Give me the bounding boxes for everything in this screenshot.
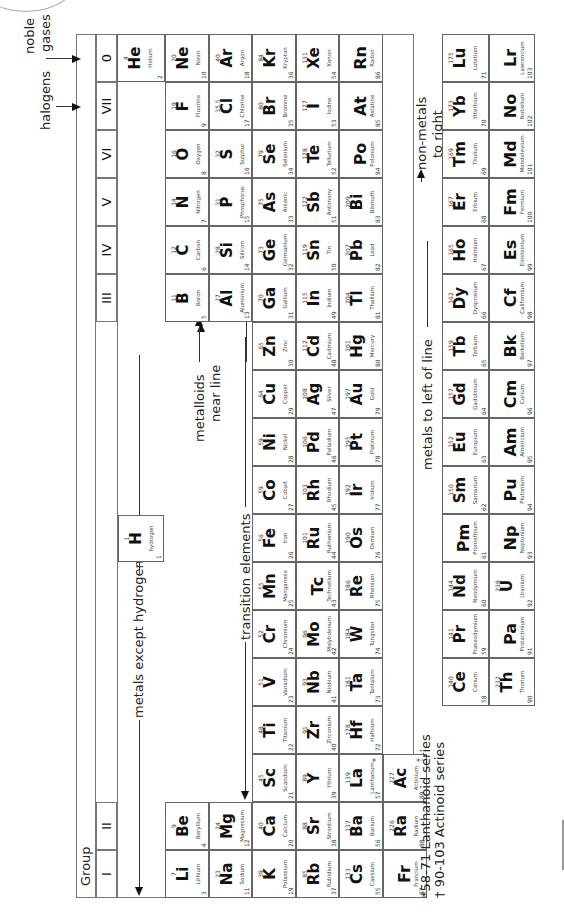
metalloids-label: metalloids xyxy=(192,374,207,442)
atomic-number: 71 xyxy=(480,71,487,79)
atomic-number: 36 xyxy=(287,71,294,79)
atomic-number: 10 xyxy=(200,71,207,79)
element-es: EsEinsteinium99 xyxy=(489,226,536,274)
element-pt: 195PtPlatinum78 xyxy=(339,418,383,466)
element-symbol: Ce xyxy=(453,659,468,705)
atomic-number: 103 xyxy=(526,68,533,79)
element-name: Lawrencium xyxy=(519,35,525,81)
element-symbol: Nd xyxy=(453,563,468,609)
group-0: 0 xyxy=(96,34,117,82)
element-se: 79SeSelenium34 xyxy=(252,130,296,178)
atomic-number: 31 xyxy=(287,311,294,319)
element-o: 16OOxygen8 xyxy=(165,130,209,178)
atomic-number: 40 xyxy=(330,743,337,751)
element-symbol: Bi xyxy=(350,179,365,225)
atomic-number: 56 xyxy=(374,839,381,847)
element-symbol: Lu xyxy=(453,35,468,81)
element-cs: 133CsCaesium55 xyxy=(339,850,383,898)
element-symbol: Ir xyxy=(350,467,365,513)
transition-arrow-line xyxy=(245,642,246,792)
element-symbol: Md xyxy=(503,131,518,177)
element-symbol: Cu xyxy=(263,371,278,417)
element-tm: 169TmThulium69 xyxy=(442,130,489,178)
element-symbol: U xyxy=(500,563,515,609)
atomic-number: 21 xyxy=(287,791,294,799)
element-name: Californium xyxy=(519,275,525,321)
element-symbol: Rn xyxy=(353,35,368,81)
element-symbol: Xe xyxy=(307,35,322,81)
atomic-number: 48 xyxy=(330,359,337,367)
element-fm: FmFermium100 xyxy=(489,178,536,226)
element-cr: 52CrChromium24 xyxy=(252,610,296,658)
series-marker: * xyxy=(372,758,381,762)
atomic-number: 38 xyxy=(330,839,337,847)
element-symbol: V xyxy=(263,659,278,705)
atomic-number: 68 xyxy=(480,215,487,223)
element-symbol: Mo xyxy=(307,611,322,657)
atomic-number: 63 xyxy=(480,455,487,463)
group-vi: VI xyxy=(96,130,117,178)
noble-gases-label: noble xyxy=(22,18,37,54)
element-symbol: Po xyxy=(353,131,368,177)
element-ar: 40ArArgon18 xyxy=(209,34,253,82)
atomic-number: 26 xyxy=(287,551,294,559)
element-mo: 96MoMolybdenum42 xyxy=(296,610,340,658)
element-name: Cerium xyxy=(472,659,478,705)
element-symbol: Sn xyxy=(307,227,322,273)
atomic-number: 97 xyxy=(526,359,533,367)
group-iii: III xyxy=(96,274,117,322)
element-symbol: Hg xyxy=(350,323,365,369)
atomic-number: 61 xyxy=(480,551,487,559)
group-label: Group xyxy=(78,846,93,886)
element-symbol: Y xyxy=(307,755,322,801)
element-ho: 165HoHolmium67 xyxy=(442,226,489,274)
atomic-number: 94 xyxy=(526,503,533,511)
element-hg: 201HgMercury80 xyxy=(339,322,383,370)
atomic-number: 49 xyxy=(330,311,337,319)
element-ce: 140CeCerium58 xyxy=(442,658,489,706)
atomic-number: 77 xyxy=(374,503,381,511)
element-name: Samarium xyxy=(472,467,478,513)
atomic-number: 18 xyxy=(243,71,250,79)
atomic-number: 24 xyxy=(287,647,294,655)
element-n: 14NNitrogen7 xyxy=(165,178,209,226)
element-symbol: Re xyxy=(350,563,365,609)
element-symbol: As xyxy=(263,179,278,225)
element-he: 4HeHelium2 xyxy=(117,34,165,82)
element-symbol: O xyxy=(176,131,191,177)
element-symbol: Tc xyxy=(310,563,325,609)
element-name: Neodymium xyxy=(472,563,478,609)
atomic-number: 7 xyxy=(200,219,207,223)
element-name: Ytterbium xyxy=(472,83,478,129)
element-symbol: Tl xyxy=(350,275,365,321)
element-symbol: Cf xyxy=(503,275,518,321)
atomic-number: 93 xyxy=(526,551,533,559)
element-symbol: Pr xyxy=(453,611,468,657)
element-rb: 85RbRubidium37 xyxy=(296,850,340,898)
element-symbol: No xyxy=(503,83,518,129)
arrow-left-icon xyxy=(241,791,249,800)
atomic-number: 57 xyxy=(374,791,381,799)
element-symbol: Pt xyxy=(350,419,365,465)
element-name: Dysprosium xyxy=(472,275,478,321)
element-pd: 106PdPalladium46 xyxy=(296,418,340,466)
element-be: 9BeBeryllium4 xyxy=(165,802,209,850)
element-cd: 112CdCadmium48 xyxy=(296,322,340,370)
atomic-number: 96 xyxy=(526,407,533,415)
element-name: Nobelium xyxy=(519,83,525,129)
group-vii: VII xyxy=(96,82,117,130)
element-re: 186ReRhenium75 xyxy=(339,562,383,610)
atomic-number: 102 xyxy=(526,116,533,127)
metalloids-arrow-line xyxy=(199,324,200,362)
element-np: NpNeptunium93 xyxy=(489,514,536,562)
element-lu: 175LuLutetium71 xyxy=(442,34,489,82)
element-s: 32SSulphur16 xyxy=(209,130,253,178)
atomic-number: 44 xyxy=(330,551,337,559)
element-fe: 56FeIron26 xyxy=(252,514,296,562)
element-symbol: Tm xyxy=(453,131,468,177)
element-pu: PuPlutonium94 xyxy=(489,466,536,514)
element-symbol: Mg xyxy=(220,803,235,849)
element-symbol: Te xyxy=(307,131,322,177)
arrow-left-icon xyxy=(135,887,143,896)
noble-gases-arrow xyxy=(46,58,74,59)
